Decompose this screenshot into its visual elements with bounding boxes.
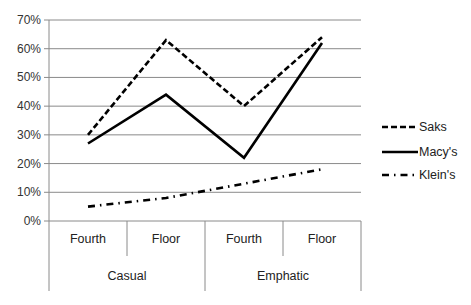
legend: Saks Macy's Klein's <box>382 120 458 182</box>
data-series <box>88 37 322 206</box>
y-tick-label: 60% <box>17 42 41 56</box>
y-tick-label: 30% <box>17 128 41 142</box>
y-tick-label: 40% <box>17 99 41 113</box>
x-label-casual-fourth: Fourth <box>70 232 106 246</box>
axes <box>49 20 361 291</box>
legend-macys-label: Macy's <box>419 145 458 159</box>
y-tick-label: 20% <box>17 157 41 171</box>
x-axis-labels: Fourth Floor Fourth Floor Casual Emphati… <box>70 232 336 283</box>
series-kleins-line <box>88 169 322 206</box>
legend-kleins-label: Klein's <box>419 168 455 182</box>
y-tick-label: 10% <box>17 185 41 199</box>
y-tick-label: 0% <box>24 214 42 228</box>
y-tick-label: 50% <box>17 70 41 84</box>
y-axis-labels: 0%10%20%30%40%50%60%70% <box>17 13 41 228</box>
x-label-emphatic-floor: Floor <box>308 232 336 246</box>
x-label-casual-floor: Floor <box>152 232 180 246</box>
series-macys-line <box>88 43 322 158</box>
x-group-label-emphatic: Emphatic <box>257 269 309 283</box>
x-group-label-casual: Casual <box>108 269 147 283</box>
y-tick-label: 70% <box>17 13 41 27</box>
x-label-emphatic-fourth: Fourth <box>226 232 262 246</box>
legend-saks-label: Saks <box>419 120 447 134</box>
line-chart: 0%10%20%30%40%50%60%70% Fourth Floor Fou… <box>0 0 471 305</box>
